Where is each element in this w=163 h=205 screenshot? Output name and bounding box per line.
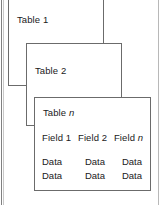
table-2-title-prefix: Table [35,65,58,76]
scan-edge-artifact-right [158,0,159,205]
field-header-n-suffix: n [138,132,143,143]
field-header-n: Field n [114,132,143,143]
field-header-1-suffix: 1 [66,132,71,143]
diagram-canvas: Table 1 Table 2 Table n Field 1 Field 2 … [0,0,163,205]
data-cell: Data [76,169,114,183]
field-header-2: Field 2 [78,132,107,143]
table-2-title-suffix: 2 [61,65,66,76]
field-header-2-prefix: Field [78,132,99,143]
field-header-n-prefix: Field [114,132,135,143]
field-header-2-suffix: 2 [102,132,107,143]
data-cell: Data [114,155,150,169]
table-1-title: Table 1 [17,14,48,25]
field-header-1: Field 1 [42,132,71,143]
table-1-title-prefix: Table [17,14,40,25]
data-cell: Data [114,169,150,183]
data-cell: Data [76,155,114,169]
data-cell: Data [42,155,76,169]
data-rows: DataDataData DataDataData [42,155,150,183]
table-n-title-prefix: Table [43,107,66,118]
table-2-title: Table 2 [35,65,66,76]
field-header-1-prefix: Field [42,132,63,143]
table-n-title-suffix: n [69,107,74,118]
table-row: DataDataData [42,169,150,183]
table-card-table-n: Table n Field 1 Field 2 Field n DataData… [34,97,151,191]
table-row: DataDataData [42,155,150,169]
data-cell: Data [42,169,76,183]
table-n-title: Table n [43,107,74,118]
table-1-title-suffix: 1 [43,14,48,25]
scan-edge-artifact-left-second [3,0,4,205]
field-header-row: Field 1 Field 2 Field n [42,132,143,143]
scan-edge-artifact-left [1,0,2,205]
